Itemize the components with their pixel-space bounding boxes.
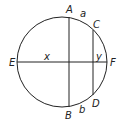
label-b-point: B — [65, 110, 72, 121]
label-segment-y: y — [95, 51, 103, 62]
label-c-point: C — [93, 19, 100, 30]
label-a-point: A — [65, 4, 73, 15]
label-d-point: D — [92, 98, 100, 109]
label-f-point: F — [110, 57, 116, 68]
label-e-point: E — [9, 57, 16, 68]
circle-diagram: A a C E x y F D b B — [0, 0, 117, 125]
label-arc-b: b — [79, 104, 85, 115]
label-arc-a: a — [80, 8, 86, 19]
label-segment-x: x — [43, 51, 50, 62]
